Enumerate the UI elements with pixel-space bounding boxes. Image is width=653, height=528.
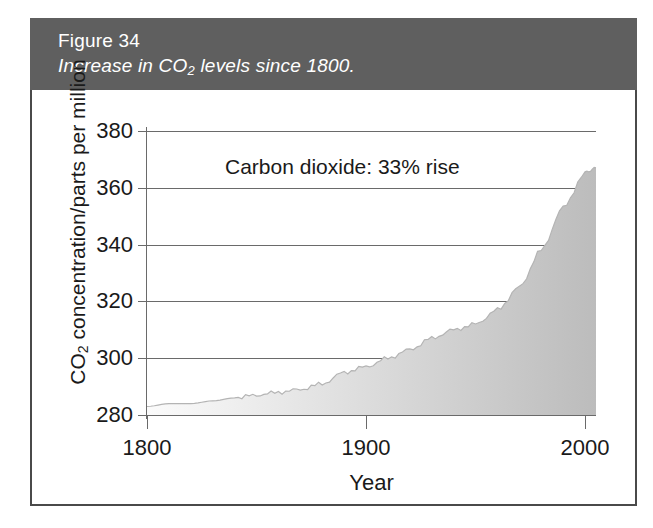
y-tick-label-380: 380 bbox=[96, 118, 133, 144]
y-axis-title-prefix: CO bbox=[66, 353, 89, 385]
gridline-280 bbox=[147, 415, 596, 416]
figure-number: Figure 34 bbox=[58, 28, 637, 53]
y-tick-label-280: 280 bbox=[96, 402, 133, 428]
chart-panel: CO2 concentration/parts per million 2803… bbox=[30, 90, 637, 506]
y-axis-title-suffix: concentration/parts per million bbox=[66, 59, 89, 345]
y-tick-320 bbox=[138, 301, 147, 302]
y-tick-300 bbox=[138, 358, 147, 359]
figure-root: Figure 34 Increase in CO2 levels since 1… bbox=[0, 0, 653, 528]
x-tick-label-1900: 1900 bbox=[342, 435, 391, 461]
y-tick-label-300: 300 bbox=[96, 345, 133, 371]
y-tick-label-360: 360 bbox=[96, 175, 133, 201]
figure-caption-banner: Figure 34 Increase in CO2 levels since 1… bbox=[30, 18, 637, 90]
y-tick-label-320: 320 bbox=[96, 288, 133, 314]
y-tick-280 bbox=[138, 415, 147, 416]
y-axis-title-subscript: 2 bbox=[75, 345, 91, 353]
y-tick-340 bbox=[138, 245, 147, 246]
y-axis-title: CO2 concentration/parts per million bbox=[66, 52, 90, 392]
x-tick-1800 bbox=[147, 415, 148, 429]
figure-caption-text: Increase in CO2 levels since 1800. bbox=[58, 53, 637, 81]
x-tick-label-2000: 2000 bbox=[561, 435, 610, 461]
y-tick-label-340: 340 bbox=[96, 232, 133, 258]
figure-caption-suffix: levels since 1800. bbox=[195, 55, 355, 76]
figure-caption-subscript: 2 bbox=[188, 63, 195, 78]
co2-area-path bbox=[147, 168, 596, 415]
chart-annotation: Carbon dioxide: 33% rise bbox=[225, 155, 460, 179]
y-tick-360 bbox=[138, 188, 147, 189]
x-tick-1900 bbox=[366, 415, 367, 429]
plot-area: 280300320340360380 180019002000 Carbon d… bbox=[147, 131, 596, 415]
x-tick-2000 bbox=[585, 415, 586, 429]
y-tick-380 bbox=[138, 131, 147, 132]
x-tick-label-1800: 1800 bbox=[123, 435, 172, 461]
x-axis-title: Year bbox=[147, 470, 596, 496]
